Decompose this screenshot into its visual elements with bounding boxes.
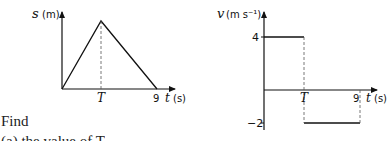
find-text: Find (1, 113, 29, 130)
tick-neg2: −2 (247, 117, 263, 130)
t-label: t (366, 91, 371, 105)
partial-question-line: (a) the value of T (1, 134, 105, 141)
displacement-time-graph: s (m) T 9 t (s) (32, 6, 186, 105)
tick-T: T (97, 91, 106, 105)
t-label: t (165, 91, 170, 105)
v-label: v (217, 6, 225, 21)
t-unit: (s) (374, 93, 387, 104)
s-t-line (62, 21, 157, 89)
s-unit: (m) (42, 9, 60, 20)
tick-T: T (300, 91, 309, 105)
velocity-time-graph: v (m s⁻¹) 4 −2 T 9 t (s) (217, 6, 387, 130)
t-unit: (s) (173, 93, 186, 104)
s-label: s (32, 6, 39, 21)
tick-9: 9 (153, 93, 159, 104)
tick-4: 4 (252, 31, 259, 44)
graphs-canvas: s (m) T 9 t (s) v (m s⁻¹) 4 −2 T 9 t (s) (0, 0, 392, 141)
v-unit: (m s⁻¹) (226, 9, 261, 20)
tick-9: 9 (353, 93, 359, 104)
